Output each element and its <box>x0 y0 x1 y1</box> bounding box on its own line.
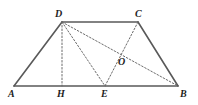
vertex-label-H: H <box>57 89 65 99</box>
segments-group <box>14 22 178 86</box>
segment-CB <box>138 22 178 86</box>
vertex-label-A: A <box>8 89 15 99</box>
segment-CE <box>105 22 138 86</box>
vertex-label-B: B <box>180 89 187 99</box>
segment-DE <box>62 22 105 86</box>
vertex-label-D: D <box>55 9 62 19</box>
vertex-label-O: O <box>118 57 125 67</box>
geometry-figure: A B C D E H O <box>0 0 198 105</box>
vertex-label-E: E <box>101 89 108 99</box>
segment-DB <box>62 22 178 86</box>
segment-AD <box>14 22 62 86</box>
vertex-label-C: C <box>135 9 142 19</box>
geometry-canvas <box>0 0 198 105</box>
